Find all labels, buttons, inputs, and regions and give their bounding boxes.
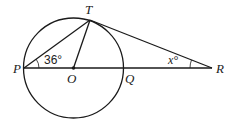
geometry-diagram: T P O Q R 36° x° [0,0,235,125]
label-Q: Q [125,71,135,86]
angle-label-P: 36° [44,53,62,67]
label-T: T [85,2,93,17]
segment-OT [74,20,91,68]
tangent-TR [90,20,212,68]
angle-arc-P [36,59,39,68]
center-point-O [72,66,76,70]
angle-arc-R [190,60,192,68]
angle-label-R: x° [167,53,178,67]
label-O: O [67,71,77,86]
label-R: R [215,61,224,76]
label-P: P [12,61,21,76]
